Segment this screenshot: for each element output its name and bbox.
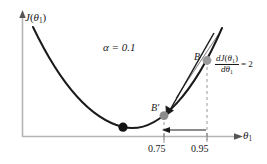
x-axis-arrowhead — [234, 133, 243, 140]
data-points-group — [118, 56, 211, 132]
step-arrow-group — [162, 127, 206, 133]
x-tick-label-075: 0.75 — [148, 144, 166, 154]
gradient-descent-figure: J(θ1) α = 0.1 B B' dJ(θ1) dθ1 = 2 0.75 0… — [0, 0, 267, 164]
derivative-denominator: dθ1 — [220, 65, 234, 75]
step-arrow-head — [162, 127, 170, 133]
x-axis-label-subscript: 1 — [248, 135, 252, 143]
derivative-equals-value: = 2 — [241, 60, 253, 69]
point-b-prime — [160, 111, 169, 120]
derivative-annotation: dJ(θ1) dθ1 = 2 — [215, 54, 253, 75]
derivative-fraction: dJ(θ1) dθ1 — [215, 54, 239, 75]
derivative-num-subscript: 1 — [232, 58, 235, 64]
tangent-lines-group — [166, 33, 219, 116]
y-axis-label-paren-close: ) — [43, 11, 47, 23]
derivative-num-J: J — [221, 53, 225, 63]
x-tick-label-095: 0.95 — [191, 144, 209, 154]
x-axis-label: θ1 — [243, 130, 252, 143]
dashed-guides-group — [164, 61, 207, 143]
derivative-numerator: dJ(θ1) — [215, 54, 239, 64]
point-minimum — [118, 123, 127, 132]
point-b-prime-label: B' — [151, 103, 159, 113]
derivative-den-subscript: 1 — [230, 69, 233, 75]
point-b — [203, 56, 212, 65]
learning-rate-annotation: α = 0.1 — [103, 42, 135, 53]
axes-group — [19, 10, 243, 140]
point-b-label: B — [194, 52, 200, 62]
y-axis-label: J(θ1) — [25, 12, 46, 25]
